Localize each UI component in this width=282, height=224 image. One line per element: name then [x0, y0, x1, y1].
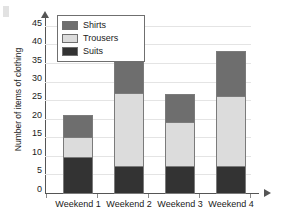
bar-weekend-4[interactable] — [216, 51, 246, 193]
x-axis-tick — [199, 194, 200, 198]
legend-item-shirts[interactable]: Shirts — [62, 19, 140, 32]
bar-segment-trousers — [114, 93, 144, 167]
legend-item-suits[interactable]: Suits — [62, 45, 140, 58]
y-tick-label: 30 — [24, 74, 42, 83]
legend-swatch-suits-icon — [62, 47, 78, 56]
bar-segment-trousers — [63, 137, 93, 158]
bar-weekend-3[interactable] — [165, 94, 195, 193]
y-tick-label: 10 — [24, 148, 42, 157]
chart-legend: Shirts Trousers Suits — [57, 15, 145, 62]
y-tick-label: 5 — [24, 166, 42, 175]
bar-segment-trousers — [216, 96, 246, 168]
x-axis-tick — [97, 194, 98, 198]
y-tick-label: 45 — [24, 19, 42, 28]
bar-segment-shirts — [216, 51, 246, 97]
legend-item-trousers[interactable]: Trousers — [62, 32, 140, 45]
y-axis-tick-labels: 0 5 10 15 20 25 30 35 40 45 — [18, 18, 42, 193]
legend-label-shirts: Shirts — [83, 21, 106, 30]
stacked-bar-chart: Number of items of clothing 0 5 10 15 20… — [0, 0, 282, 224]
y-tick-label: 15 — [24, 129, 42, 138]
x-axis-arrow — [264, 189, 271, 197]
y-tick-label: 40 — [24, 37, 42, 46]
bar-segment-suits — [216, 166, 246, 194]
legend-label-suits: Suits — [83, 47, 103, 56]
bar-segment-shirts — [63, 115, 93, 137]
scan-artifact — [3, 6, 9, 17]
bar-segment-suits — [114, 166, 144, 194]
x-axis-tick — [250, 194, 251, 198]
y-tick-label: 20 — [24, 111, 42, 120]
x-axis-tick — [148, 194, 149, 198]
y-tick-label: 35 — [24, 56, 42, 65]
legend-swatch-trousers-icon — [62, 34, 78, 43]
bar-weekend-1[interactable] — [63, 115, 93, 193]
bar-segment-trousers — [165, 122, 195, 167]
legend-swatch-shirts-icon — [62, 21, 78, 30]
y-tick-label: 0 — [24, 185, 42, 194]
y-tick-label: 25 — [24, 92, 42, 101]
bar-segment-suits — [63, 157, 93, 194]
x-axis-tick — [46, 194, 47, 198]
bar-segment-suits — [165, 166, 195, 194]
legend-label-trousers: Trousers — [83, 34, 118, 43]
y-axis-arrow — [41, 11, 49, 18]
x-axis-label-weekend-4: Weekend 4 — [194, 199, 268, 209]
bar-segment-shirts — [165, 94, 195, 122]
bar-weekend-2[interactable] — [114, 40, 144, 193]
